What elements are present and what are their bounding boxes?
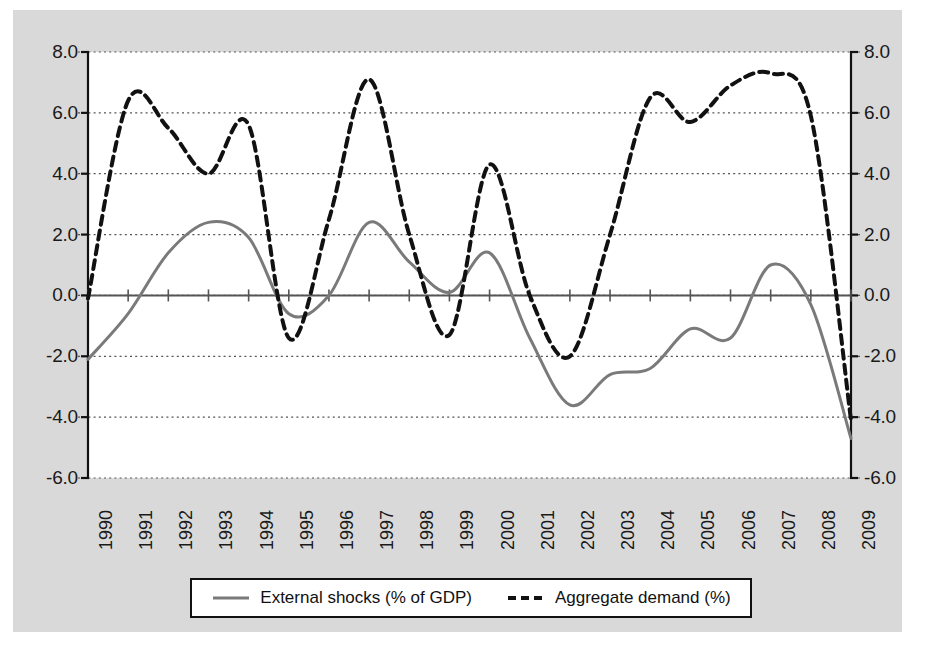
dashed-line-swatch-icon <box>506 591 546 605</box>
data-series-group <box>88 72 851 439</box>
legend-entry-external-shocks[interactable]: External shocks (% of GDP) <box>211 588 472 608</box>
x-axis-label-2008: 2008 <box>820 510 838 550</box>
series-line-external-shocks <box>88 222 851 439</box>
chart-legend: External shocks (% of GDP) Aggregate dem… <box>190 578 752 618</box>
solid-line-swatch-icon <box>211 591 251 605</box>
chart-figure: 8.08.06.06.04.04.02.02.00.00.0-2.0-2.0-4… <box>0 0 942 662</box>
legend-label-aggregate-demand: Aggregate demand (%) <box>555 588 731 608</box>
y-axis-label-right--6: -6.0 <box>864 468 896 487</box>
chart-canvas <box>0 0 942 662</box>
y-axis-label-left--6: -6.0 <box>46 468 78 487</box>
y-axis-label-left-0: 0.0 <box>52 285 78 304</box>
y-axis-label-right--2: -2.0 <box>864 346 896 365</box>
x-axis-label-2005: 2005 <box>699 510 717 550</box>
series-line-aggregate-demand <box>88 72 851 420</box>
axes-group <box>81 52 858 478</box>
y-axis-label-right-6: 6.0 <box>864 103 890 122</box>
x-axis-label-1996: 1996 <box>338 510 356 550</box>
y-axis-label-left-6: 6.0 <box>52 103 78 122</box>
x-axis-label-1999: 1999 <box>458 510 476 550</box>
x-axis-label-2002: 2002 <box>579 510 597 550</box>
y-axis-label-left--4: -4.0 <box>46 407 78 426</box>
x-axis-label-2004: 2004 <box>659 510 677 550</box>
legend-entry-aggregate-demand[interactable]: Aggregate demand (%) <box>506 588 731 608</box>
gridlines-group <box>78 52 861 478</box>
y-axis-label-right--4: -4.0 <box>864 407 896 426</box>
x-axis-label-2003: 2003 <box>619 510 637 550</box>
y-axis-label-right-8: 8.0 <box>864 42 890 61</box>
x-axis-label-2000: 2000 <box>499 510 517 550</box>
x-axis-label-2007: 2007 <box>780 510 798 550</box>
x-axis-label-1993: 1993 <box>217 510 235 550</box>
y-axis-label-left--2: -2.0 <box>46 346 78 365</box>
legend-label-external-shocks: External shocks (% of GDP) <box>260 588 472 608</box>
x-axis-label-2001: 2001 <box>539 510 557 550</box>
x-axis-label-2006: 2006 <box>740 510 758 550</box>
x-axis-label-1998: 1998 <box>418 510 436 550</box>
x-axis-label-1995: 1995 <box>298 510 316 550</box>
y-axis-label-left-2: 2.0 <box>52 225 78 244</box>
y-axis-label-left-4: 4.0 <box>52 164 78 183</box>
x-axis-label-1997: 1997 <box>378 510 396 550</box>
y-axis-label-right-2: 2.0 <box>864 225 890 244</box>
y-axis-label-right-0: 0.0 <box>864 285 890 304</box>
x-axis-label-2009: 2009 <box>860 510 878 550</box>
x-axis-label-1991: 1991 <box>137 510 155 550</box>
x-axis-label-1992: 1992 <box>177 510 195 550</box>
y-axis-label-left-8: 8.0 <box>52 42 78 61</box>
y-axis-label-right-4: 4.0 <box>864 164 890 183</box>
x-axis-label-1994: 1994 <box>258 510 276 550</box>
x-axis-label-1990: 1990 <box>97 510 115 550</box>
